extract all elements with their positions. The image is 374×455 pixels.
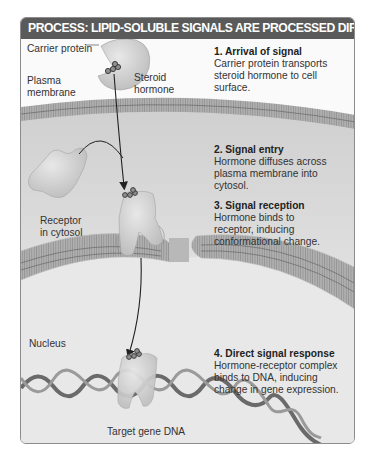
step-1-heading: 1. Arrival of signal	[214, 46, 354, 58]
target-gene-dna-label: Target gene DNA	[107, 426, 185, 438]
step-3: 3. Signal reception Hormone binds to rec…	[214, 200, 354, 248]
step-1-body: Carrier protein transports steroid hormo…	[214, 58, 354, 94]
step-2-body: Hormone diffuses across plasma membrane …	[214, 156, 354, 192]
carrier-protein-label: Carrier protein	[27, 43, 92, 55]
steroid-hormone-label: Steroid hormone	[134, 72, 174, 96]
step-1: 1. Arrival of signal Carrier protein tra…	[214, 46, 354, 94]
step-2-heading: 2. Signal entry	[214, 144, 354, 156]
nuclear-pore	[169, 238, 189, 262]
step-4-body: Hormone-receptor complex binds to DNA, i…	[214, 360, 354, 396]
nucleus-label: Nucleus	[29, 338, 66, 350]
process-diagram-frame: PROCESS: LIPID-SOLUBLE SIGNALS ARE PROCE…	[20, 17, 355, 444]
receptor-in-cytosol-label: Receptor in cytosol	[40, 215, 82, 239]
step-3-heading: 3. Signal reception	[214, 200, 354, 212]
step-2: 2. Signal entry Hormone diffuses across …	[214, 144, 354, 192]
page-title: PROCESS: LIPID-SOLUBLE SIGNALS ARE PROCE…	[21, 18, 354, 39]
step-4-heading: 4. Direct signal response	[214, 348, 354, 360]
step-3-body: Hormone binds to receptor, inducing conf…	[214, 212, 354, 248]
plasma-membrane-label: Plasma membrane	[27, 75, 76, 99]
step-4: 4. Direct signal response Hormone-recept…	[214, 348, 354, 396]
